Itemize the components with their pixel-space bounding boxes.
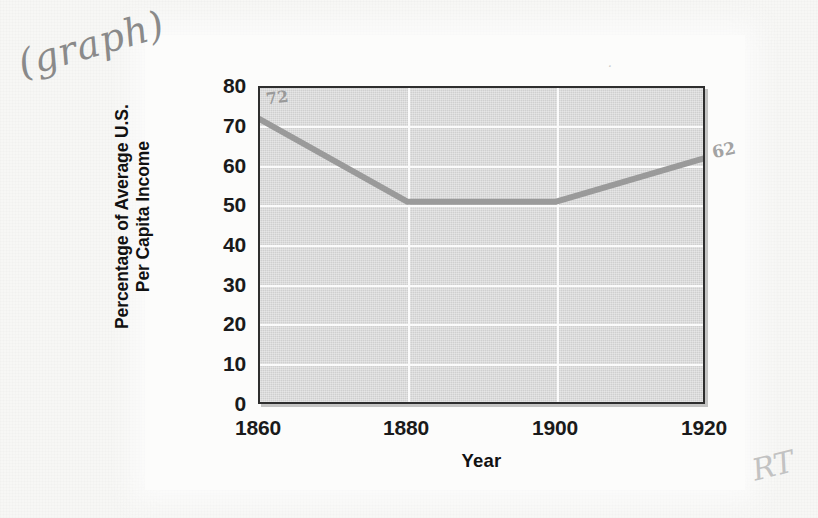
x-axis-title: Year <box>258 450 705 472</box>
y-tick-20: 20 <box>178 312 246 336</box>
y-tick-50: 50 <box>178 193 246 217</box>
y-tick-30: 30 <box>178 273 246 297</box>
x-tick-1920: 1920 <box>664 416 744 440</box>
y-tick-60: 60 <box>178 154 246 178</box>
x-tick-1880: 1880 <box>366 416 446 440</box>
y-axis-title-line-2: Per Capita Income <box>133 67 154 367</box>
y-tick-10: 10 <box>178 352 246 376</box>
y-tick-40: 40 <box>178 233 246 257</box>
y-axis-title: Percentage of Average U.S. Per Capita In… <box>112 67 153 367</box>
series-layer <box>260 88 703 402</box>
x-tick-1900: 1900 <box>515 416 595 440</box>
series-line-per-capita-income <box>260 119 703 201</box>
plot-area <box>258 86 705 404</box>
x-tick-1860: 1860 <box>218 416 298 440</box>
line-chart-figure: Percentage of Average U.S. Per Capita In… <box>0 0 818 518</box>
y-axis-title-line-1: Percentage of Average U.S. <box>112 67 133 367</box>
y-tick-70: 70 <box>178 114 246 138</box>
y-tick-80: 80 <box>178 74 246 98</box>
y-tick-0: 0 <box>178 392 246 416</box>
